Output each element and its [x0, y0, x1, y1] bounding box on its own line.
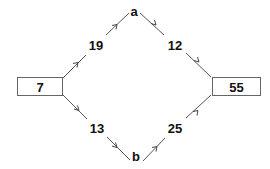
edge-segment	[107, 137, 130, 160]
node-source: 7	[18, 78, 63, 96]
node-a: a	[130, 4, 138, 19]
flow-diagram: 19 12 13 25 7 55 a b	[0, 0, 270, 169]
edge-segment	[186, 53, 211, 77]
node-label-sink: 55	[229, 80, 243, 95]
edge-segment	[63, 95, 87, 119]
edge-label-13: 13	[90, 121, 104, 136]
edge-b-to-sink: 25	[143, 95, 211, 161]
edge-segment	[143, 138, 165, 161]
node-label-source: 7	[36, 80, 43, 95]
node-b: b	[132, 149, 140, 164]
edge-segment	[63, 55, 86, 78]
node-sink: 55	[213, 78, 261, 96]
edge-a-to-sink: 12	[140, 13, 211, 77]
edge-label-19: 19	[89, 38, 103, 53]
edge-source-to-b: 13	[63, 95, 130, 160]
edge-label-12: 12	[168, 38, 182, 53]
edge-label-25: 25	[168, 121, 182, 136]
arrow-icon	[193, 111, 198, 116]
edge-segment	[186, 95, 211, 118]
edge-source-to-a: 19	[63, 13, 129, 78]
